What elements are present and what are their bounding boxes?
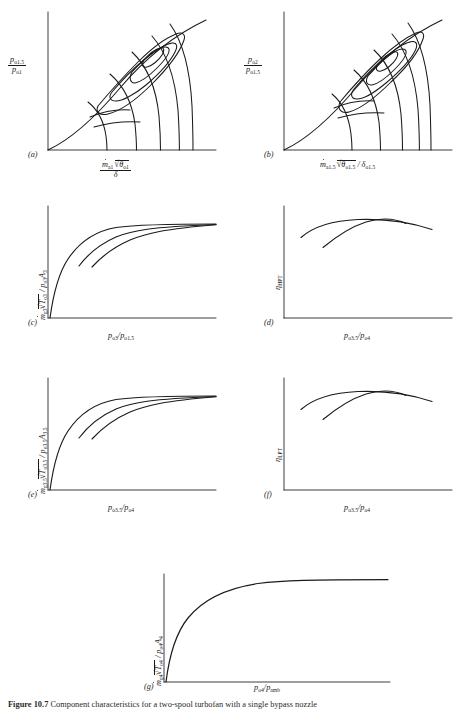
figure-caption: Figure 10.7 Component characteristics fo… — [8, 700, 468, 709]
figure-caption-text: Component characteristics for a two-spoo… — [50, 700, 317, 709]
panel-a-id: (a) — [28, 150, 38, 159]
panel-b-y-axis-label: po2 po1.5 — [244, 56, 262, 76]
panel-g-y-axis-label: mg4√To4 / po4A4 — [154, 636, 164, 686]
panel-b-plot-area — [282, 10, 454, 158]
efficiency-contour-open-2 — [94, 122, 140, 127]
panel-f-id: (f) — [264, 490, 272, 499]
panel-c-x-axis-label: po3/po1.5 — [108, 332, 134, 341]
panel-f-y-axis-label: ηLPT — [274, 448, 283, 462]
panel-d-y-axis-label: ηHPT — [274, 275, 283, 290]
figure-10-7: (a) po1.5 po1 ma1 √θo1 δ — [0, 0, 472, 712]
panel-f-x-axis-label: po3.5/po4 — [344, 504, 370, 513]
panel-c-hp-turbine-flow: (c) — [46, 204, 218, 326]
speed-line-1 — [332, 94, 352, 150]
panel-g-plot-area — [162, 572, 392, 690]
efficiency-curve-2 — [323, 391, 406, 420]
panel-e-lp-turbine-flow: (e) — [46, 376, 218, 498]
panel-e-x-axis-label: po3.5/po4 — [108, 504, 134, 513]
panel-e-plot-area — [46, 376, 218, 498]
panel-g-x-axis-label: po4/pamb — [254, 684, 280, 693]
panel-a-fan-map: (a) — [46, 10, 218, 158]
panel-c-y-axis-label: mg3√To3 / po3A3 — [38, 270, 48, 320]
nozzle-curve — [166, 580, 388, 682]
panel-d-id: (d) — [264, 318, 274, 327]
panel-e-y-axis-label: mg3.5√To3.5 / po3.5A3.5 — [38, 427, 48, 494]
panel-e-id: (e) — [28, 490, 37, 499]
panel-a-plot-area — [46, 10, 218, 158]
panel-b-id: (b) — [264, 150, 274, 159]
panel-b-x-axis-label: ma1.5 √θo1.5 / δo1.5 — [320, 160, 375, 170]
figure-caption-label: Figure 10.7 — [8, 700, 48, 709]
speed-line-4 — [152, 36, 179, 150]
panel-d-x-axis-label: po3.5/po4 — [344, 332, 370, 341]
surge-line — [48, 20, 206, 150]
panel-a-x-axis-label: ma1 √θo1 δ — [100, 160, 131, 180]
choking-curve-1 — [50, 224, 216, 318]
panel-a-y-axis-label: po1.5 po1 — [8, 56, 26, 76]
choking-curve-1 — [50, 396, 216, 490]
panel-d-hp-turbine-efficiency: (d) — [282, 204, 454, 326]
choking-curve-3 — [92, 225, 216, 267]
panel-d-plot-area — [282, 204, 454, 326]
panel-f-lp-turbine-efficiency: (f) — [282, 376, 454, 498]
efficiency-contour-peak — [376, 52, 397, 71]
choking-curve-3 — [92, 397, 216, 439]
panel-g-propelling-nozzle-flow: (g) — [162, 572, 392, 690]
panel-f-plot-area — [282, 376, 454, 498]
panel-g-id: (g) — [144, 682, 154, 691]
panel-b-hp-compressor-map: (b) — [282, 10, 454, 158]
efficiency-curve-2 — [323, 219, 406, 248]
efficiency-contour-outer — [339, 32, 424, 112]
panel-c-plot-area — [46, 204, 218, 326]
panel-c-id: (c) — [28, 318, 37, 327]
surge-line — [284, 20, 442, 150]
